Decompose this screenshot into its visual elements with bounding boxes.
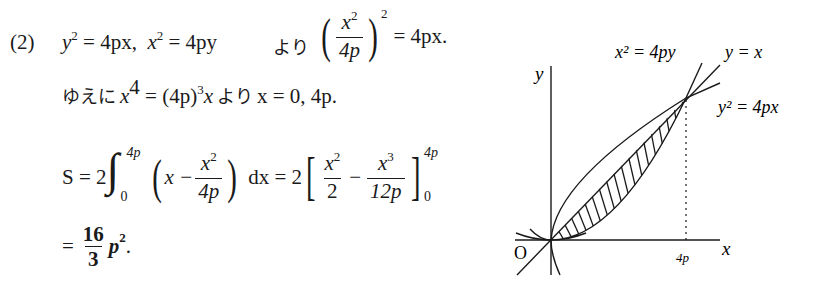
area-graph: y x O 4p x² = 4py y = x y² = 4px — [0, 0, 818, 297]
x-tick-4p: 4p — [676, 250, 690, 265]
y-axis-label: y — [533, 63, 544, 84]
label-y2-4px: y² = 4px — [716, 97, 779, 117]
origin-label: O — [514, 243, 527, 263]
label-x2-4py: x² = 4py — [614, 42, 676, 62]
parabola-y2-4px — [551, 83, 720, 275]
x-axis-label: x — [721, 238, 731, 259]
label-y-equals-x: y = x — [723, 42, 762, 62]
parabola-x2-4py — [516, 63, 702, 240]
